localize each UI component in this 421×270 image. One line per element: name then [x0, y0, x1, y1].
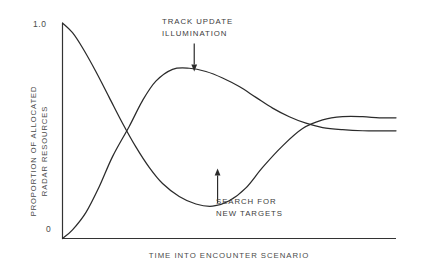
annotation-track-update-illumination: TRACK UPDATE ILLUMINATION	[162, 16, 233, 39]
annotation-search-for-new-targets: SEARCH FOR NEW TARGETS	[216, 196, 283, 219]
x-axis-title: TIME INTO ENCOUNTER SCENARIO	[62, 251, 396, 260]
chart-plot-area	[0, 0, 421, 270]
series-line-search-for-new-targets	[63, 23, 397, 206]
annotation-arrows	[191, 43, 220, 202]
arrow-down-icon	[191, 43, 197, 71]
y-axis-tick-label-top: 1.0	[33, 19, 47, 29]
y-axis-title: PROPORTION OF ALLOCATED RADAR RESOURCES	[28, 76, 50, 226]
radar-resource-allocation-chart: 1.0 0 PROPORTION OF ALLOCATED RADAR RESO…	[0, 0, 421, 270]
